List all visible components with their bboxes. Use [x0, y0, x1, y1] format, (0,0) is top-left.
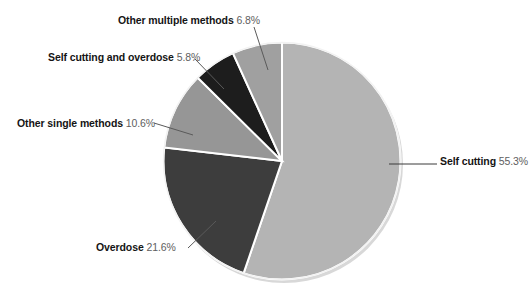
callout-percent-overdose: 21.6%	[146, 241, 175, 253]
callout-other-multiple-methods: Other multiple methods 6.8%	[118, 14, 260, 26]
callout-label-overdose: Overdose	[96, 241, 144, 253]
callout-percent-self-cutting-and-overdose: 5.8%	[177, 51, 201, 63]
callout-percent-self-cutting: 55.3%	[499, 155, 528, 167]
callout-percent-other-multiple-methods: 6.8%	[236, 14, 260, 26]
pie-chart-svg	[0, 0, 530, 298]
callout-percent-other-single-methods: 10.6%	[126, 117, 155, 129]
callout-overdose: Overdose 21.6%	[96, 241, 176, 253]
callout-self-cutting: Self cutting 55.3%	[440, 155, 528, 167]
pie-chart-figure: Other multiple methods 6.8% Self cutting…	[0, 0, 530, 298]
callout-label-other-multiple-methods: Other multiple methods	[118, 14, 234, 26]
callout-label-self-cutting: Self cutting	[440, 155, 496, 167]
callout-label-self-cutting-and-overdose: Self cutting and overdose	[48, 51, 174, 63]
callout-label-other-single-methods: Other single methods	[17, 117, 123, 129]
callout-other-single-methods: Other single methods 10.6%	[17, 117, 155, 129]
callout-self-cutting-and-overdose: Self cutting and overdose 5.8%	[48, 51, 200, 63]
